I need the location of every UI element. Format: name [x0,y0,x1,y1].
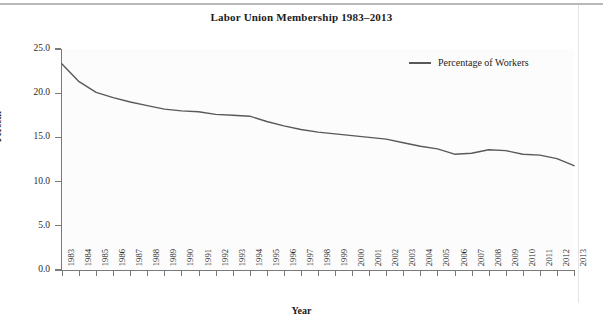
y-axis-tick-label: 15.0 [6,131,50,141]
x-axis-tick [506,271,507,276]
plot-area [62,49,574,270]
y-axis-tick-label: 20.0 [6,87,50,97]
legend-label-percentage-of-workers: Percentage of Workers [438,57,529,68]
x-axis-tick [335,271,336,276]
x-axis-tick [250,271,251,276]
x-axis-tick-label: 2010 [527,249,537,279]
y-axis-tick-label: 10.0 [6,176,50,186]
legend: Percentage of Workers [409,57,529,68]
x-axis-tick-label: 2009 [510,249,520,279]
x-axis-tick [301,271,302,276]
x-axis-tick-label: 2013 [578,249,588,279]
x-axis-tick-label: 2012 [561,249,571,279]
legend-swatch-percentage-of-workers [409,62,431,64]
x-axis-tick-label: 2002 [390,249,400,279]
x-axis-tick-label: 1997 [305,249,315,279]
x-axis-tick-label: 1999 [339,249,349,279]
chart-title: Labor Union Membership 1983–2013 [0,11,603,23]
x-axis-tick-label: 2004 [424,249,434,279]
y-axis-tick [55,225,61,226]
y-axis-line [61,49,62,271]
x-axis-tick-label: 1984 [83,249,93,279]
x-axis-tick [113,271,114,276]
x-axis-tick-label: 2006 [459,249,469,279]
x-axis-tick-label: 1986 [117,249,127,279]
x-axis-tick-label: 1995 [271,249,281,279]
y-axis-tick-label: 0.0 [6,264,50,274]
y-axis-tick [55,48,61,49]
y-axis-tick [55,93,61,94]
x-axis-tick [455,271,456,276]
x-axis-tick [79,271,80,276]
x-axis-tick-label: 1991 [203,249,213,279]
x-axis-tick [523,271,524,276]
x-axis-tick-label: 1992 [220,249,230,279]
x-axis-tick-label: 2001 [373,249,383,279]
x-axis-tick [437,271,438,276]
x-axis-tick [267,271,268,276]
x-axis-tick-label: 1994 [254,249,264,279]
x-axis-tick-label: 1989 [168,249,178,279]
x-axis-tick [369,271,370,276]
y-axis-tick [55,269,61,270]
x-axis-tick [403,271,404,276]
x-axis-tick-label: 1988 [151,249,161,279]
x-axis-tick-label: 2003 [407,249,417,279]
x-axis-tick [233,271,234,276]
y-axis-title: Percent [0,111,3,142]
x-axis-tick-label: 1985 [100,249,110,279]
x-axis-tick [130,271,131,276]
x-axis-tick-label: 2007 [476,249,486,279]
x-axis-tick-label: 1993 [237,249,247,279]
y-axis-tick [55,137,61,138]
x-axis-tick [352,271,353,276]
x-axis-tick [216,271,217,276]
y-axis-tick [55,181,61,182]
x-axis-tick-label: 1987 [134,249,144,279]
x-axis-tick-label: 1996 [288,249,298,279]
x-axis-tick [96,271,97,276]
x-axis-tick-label: 1998 [322,249,332,279]
x-axis-tick [557,271,558,276]
x-axis-tick [472,271,473,276]
y-axis-tick-label: 25.0 [6,43,50,53]
x-axis-tick [164,271,165,276]
x-axis-tick-label: 2011 [544,249,554,279]
x-axis-tick [62,271,63,276]
x-axis-tick [181,271,182,276]
x-axis-tick [540,271,541,276]
x-axis-tick [147,271,148,276]
chart-figure: Labor Union Membership 1983–2013 0.05.01… [0,0,603,336]
y-axis-tick-label: 5.0 [6,220,50,230]
x-axis-tick [489,271,490,276]
x-axis-tick-label: 2000 [356,249,366,279]
x-axis-tick [574,271,575,276]
x-axis-tick [284,271,285,276]
x-axis-title: Year [0,305,603,316]
x-axis-tick-label: 2005 [441,249,451,279]
x-axis-tick [318,271,319,276]
x-axis-tick [199,271,200,276]
x-axis-tick [420,271,421,276]
x-axis-tick-label: 1983 [66,249,76,279]
x-axis-tick-label: 1990 [185,249,195,279]
top-rule-divider [0,3,603,5]
x-axis-tick-label: 2008 [493,249,503,279]
x-axis-tick [386,271,387,276]
